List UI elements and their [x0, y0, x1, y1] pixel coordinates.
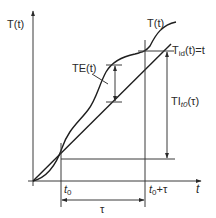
- y-axis-label: T(t): [7, 18, 24, 30]
- te-pointer-line: [92, 74, 108, 84]
- curve-label: T(t): [147, 17, 164, 29]
- error-label: TE(t): [72, 62, 96, 74]
- ideal-time-line: [33, 44, 171, 181]
- ideal-line-label: Tid(t)=t: [172, 44, 205, 58]
- tau-label: τ: [100, 203, 105, 215]
- x-axis-label: t: [196, 182, 200, 196]
- clock-curve: [33, 22, 176, 181]
- t0-label: t0: [64, 183, 72, 197]
- timing-error-diagram: T(t) T(t) Tid(t)=t TE(t) TIt0(τ) t0 t0+τ…: [0, 0, 216, 218]
- interval-label: TIt0(τ): [171, 95, 199, 109]
- t0-tau-label: t0+τ: [149, 183, 168, 197]
